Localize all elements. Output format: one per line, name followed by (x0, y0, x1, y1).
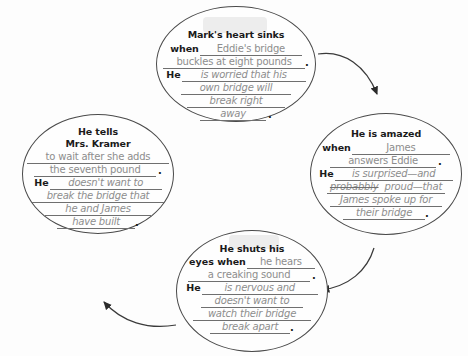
answer-blank[interactable]: doesn't want to (201, 295, 303, 308)
bubble-left-title-line2: Mrs. Kramer (23, 138, 173, 150)
prompt-lead: when (170, 43, 200, 56)
bubble-right-title: He is amazed (311, 128, 461, 140)
answer-line: own bridge will (157, 82, 315, 95)
sentence-period: . (436, 156, 442, 168)
arrow-bottom-to-left (104, 302, 176, 326)
sentence-period: . (425, 208, 429, 220)
sentence-period: . (135, 217, 139, 229)
he-tells-mrs-kramer-bubble: He tells Mrs. Kramer to wait after she a… (22, 114, 174, 234)
answer-blank[interactable]: break right (187, 95, 285, 108)
answer-blank[interactable]: their bridge (343, 207, 425, 220)
sentence-period: . (266, 109, 272, 121)
answer-line: he and James (23, 203, 173, 216)
answer-blank[interactable]: James spoke up for (330, 194, 442, 207)
prompt-lead: He (186, 282, 201, 295)
answer-line: when James (311, 142, 461, 155)
answer-blank[interactable]: break apart (210, 321, 290, 334)
answer-blank[interactable]: is worried that his (182, 69, 306, 82)
answer-line: have built . (23, 216, 173, 229)
answer-blank[interactable]: watch their bridge (193, 308, 311, 321)
answer-line: away . (157, 108, 315, 121)
answer-line: doesn't want to (177, 295, 327, 308)
answer-line: He is nervous and (177, 282, 327, 295)
prompt-lead: when (322, 142, 352, 155)
answer-blank[interactable]: doesn't want to (50, 177, 162, 190)
answer-line: the seventh pound . (23, 164, 173, 177)
bubble-bottom-title: He shuts his (177, 243, 327, 255)
prompt-lead: He (34, 177, 49, 190)
prompt-lead: eyes when (189, 256, 247, 269)
answer-blank[interactable]: buckles at eight pounds (163, 56, 305, 69)
answer-line: buckles at eight pounds . (157, 56, 315, 69)
answer-line: when Eddie's bridge (157, 43, 315, 56)
answer-blank[interactable]: to wait after she adds (27, 151, 169, 164)
prompt-lead: He (166, 69, 181, 82)
answer-line: their bridge . (311, 207, 461, 220)
answer-blank[interactable]: is surprised—and (335, 168, 453, 181)
answer-blank[interactable]: James (352, 142, 450, 155)
prompt-lead: He (319, 168, 334, 181)
answer-line: to wait after she adds (23, 151, 173, 164)
answer-blank[interactable]: he and James (45, 203, 151, 216)
arrow-top-to-right (318, 53, 377, 94)
answer-blank[interactable]: the seventh pound (34, 164, 156, 177)
answer-line: break the bridge that (23, 190, 173, 203)
answer-line: He is worried that his (157, 69, 315, 82)
he-is-amazed-bubble: He is amazed when James answers Eddie . … (310, 113, 462, 235)
answer-blank[interactable]: own bridge will (181, 82, 291, 95)
answer-blank[interactable]: proud—that (382, 181, 446, 194)
answer-blank[interactable]: away (200, 108, 266, 121)
answer-blank[interactable]: answers Eddie (330, 155, 436, 168)
marks-heart-sinks-bubble: Mark's heart sinks when Eddie's bridge b… (156, 6, 316, 122)
answer-line: eyes when he hears (177, 256, 327, 269)
answer-line: James spoke up for (311, 194, 461, 207)
sentence-period: . (290, 322, 294, 334)
answer-line: He is surprised—and (311, 168, 461, 181)
answer-blank[interactable]: a creaking sound (188, 269, 310, 282)
answer-line: break right (157, 95, 315, 108)
answer-line: watch their bridge (177, 308, 327, 321)
arrow-right-to-bottom (322, 248, 374, 290)
answer-blank[interactable]: he hears (247, 256, 315, 269)
answer-line: He doesn't want to (23, 177, 173, 190)
sentence-period: . (305, 57, 309, 69)
answer-blank[interactable]: have built (57, 216, 135, 229)
sentence-period: . (310, 270, 316, 282)
bubble-top-title: Mark's heart sinks (157, 29, 315, 41)
sentence-period: . (156, 165, 162, 177)
answer-line: answers Eddie . (311, 155, 461, 168)
answer-line: probabbly proud—that (311, 181, 461, 194)
bubble-left-title-line1: He tells (23, 126, 173, 138)
answer-blank[interactable]: break the bridge that (32, 190, 164, 203)
answer-blank[interactable]: is nervous and (202, 282, 318, 295)
answer-line: a creaking sound . (177, 269, 327, 282)
he-shuts-his-eyes-bubble: He shuts his eyes when he hears a creaki… (176, 230, 328, 352)
worksheet-canvas: Mark's heart sinks when Eddie's bridge b… (0, 0, 468, 356)
answer-blank[interactable]: Eddie's bridge (200, 43, 302, 56)
answer-line: break apart . (177, 321, 327, 334)
answer-blank-strikethrough[interactable]: probabbly (327, 181, 382, 194)
